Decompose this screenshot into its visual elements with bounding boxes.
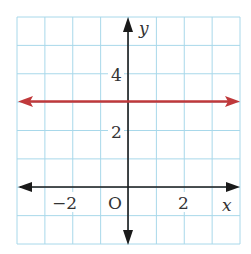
y-axis-down-arrow-icon <box>123 230 133 245</box>
x-axis-label: x <box>222 195 232 215</box>
x-tick-label-neg2: −2 <box>52 193 77 213</box>
y-axis-label: y <box>138 18 149 38</box>
x-axis-right-arrow-icon <box>226 182 240 192</box>
y-axis-up-arrow-icon <box>123 17 133 32</box>
y-tick-label-2: 2 <box>111 122 122 142</box>
coordinate-plane: 4 2 −2 O 2 x y <box>0 0 251 254</box>
y-tick-label-4: 4 <box>111 65 122 85</box>
origin-label: O <box>108 193 122 213</box>
x-tick-label-2: 2 <box>178 193 189 213</box>
x-axis-left-arrow-icon <box>18 182 32 192</box>
